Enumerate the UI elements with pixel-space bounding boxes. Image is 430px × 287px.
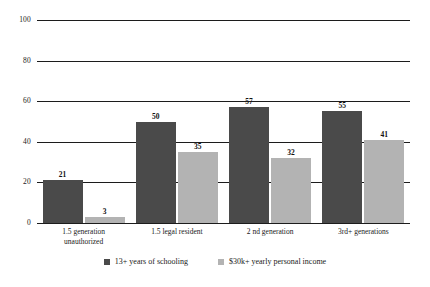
y-tick-40: 40 <box>23 138 31 146</box>
bar-value-label: 41 <box>364 131 404 139</box>
bar-group: 213 <box>39 20 129 223</box>
legend-label: 13+ years of schooling <box>115 258 188 266</box>
bar-rect <box>271 158 311 223</box>
bar-value-label: 57 <box>229 98 269 106</box>
chart-legend: 13+ years of schooling$30k+ yearly perso… <box>0 258 430 266</box>
x-axis-category-labels: 1.5 generation unauthorized1.5 legal res… <box>37 227 410 257</box>
bar[interactable]: 3 <box>85 217 125 223</box>
bar-value-label: 32 <box>271 149 311 157</box>
bar[interactable]: 32 <box>271 158 311 223</box>
gridline-0 <box>37 223 410 224</box>
legend-swatch-icon <box>218 259 224 265</box>
bar[interactable]: 55 <box>322 111 362 223</box>
legend-label: $30k+ yearly personal income <box>229 258 326 266</box>
bar-rect <box>178 152 218 223</box>
legend-swatch-icon <box>104 259 110 265</box>
bar-rect <box>322 111 362 223</box>
bar-value-label: 35 <box>178 143 218 151</box>
bar-group: 5541 <box>318 20 408 223</box>
category-label: 1.5 generation unauthorized <box>39 227 129 247</box>
bar-rect <box>43 180 83 223</box>
bar[interactable]: 41 <box>364 140 404 223</box>
bar[interactable]: 57 <box>229 107 269 223</box>
y-tick-20: 20 <box>23 179 31 187</box>
legend-item[interactable]: $30k+ yearly personal income <box>218 258 326 266</box>
bar-rect <box>229 107 269 223</box>
bar-rect <box>136 122 176 224</box>
bar[interactable]: 50 <box>136 122 176 224</box>
category-label: 2 nd generation <box>225 227 315 237</box>
plot-area: 020406080100 213503557325541 <box>37 20 410 223</box>
y-tick-100: 100 <box>19 16 31 24</box>
bar-value-label: 21 <box>43 171 83 179</box>
y-tick-0: 0 <box>27 219 31 227</box>
bar-rect <box>364 140 404 223</box>
category-label: 1.5 legal resident <box>132 227 222 237</box>
y-tick-80: 80 <box>23 57 31 65</box>
bar-value-label: 3 <box>85 208 125 216</box>
y-tick-60: 60 <box>23 97 31 105</box>
bar[interactable]: 21 <box>43 180 83 223</box>
bar-group: 5732 <box>225 20 315 223</box>
bars-layer: 213503557325541 <box>37 20 410 223</box>
bar-value-label: 50 <box>136 113 176 121</box>
category-label: 3rd+ generations <box>318 227 408 237</box>
bar-rect <box>85 217 125 223</box>
bar-value-label: 55 <box>322 102 362 110</box>
bar-group: 5035 <box>132 20 222 223</box>
bar-chart: 020406080100 213503557325541 1.5 generat… <box>0 0 430 287</box>
bar[interactable]: 35 <box>178 152 218 223</box>
legend-item[interactable]: 13+ years of schooling <box>104 258 188 266</box>
